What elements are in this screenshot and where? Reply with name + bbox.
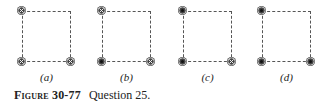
current-out-of-page-icon bbox=[178, 57, 187, 66]
panel-label: (c) bbox=[183, 71, 232, 83]
current-into-page-icon bbox=[97, 6, 106, 15]
figure-caption: Figure 30-77Question 25. bbox=[14, 88, 150, 103]
current-out-of-page-icon bbox=[97, 57, 106, 66]
panel-label: (d) bbox=[262, 71, 311, 83]
panel-a-square bbox=[22, 11, 71, 62]
current-out-of-page-icon bbox=[257, 57, 266, 66]
figure-caption-text: Question 25. bbox=[89, 88, 150, 102]
current-out-of-page-icon bbox=[306, 57, 315, 66]
current-into-page-icon bbox=[227, 57, 236, 66]
panel-label: (a) bbox=[22, 71, 71, 83]
current-out-of-page-icon bbox=[178, 6, 187, 15]
figure-number: Figure 30-77 bbox=[14, 88, 81, 102]
current-into-page-icon bbox=[17, 6, 26, 15]
current-into-page-icon bbox=[66, 57, 75, 66]
panel-c-square bbox=[183, 11, 232, 62]
current-out-of-page-icon bbox=[257, 6, 266, 15]
current-into-page-icon bbox=[17, 57, 26, 66]
current-into-page-icon bbox=[146, 57, 155, 66]
panel-b-square bbox=[102, 11, 151, 62]
panel-d-square bbox=[262, 11, 311, 62]
panel-label: (b) bbox=[102, 71, 151, 83]
